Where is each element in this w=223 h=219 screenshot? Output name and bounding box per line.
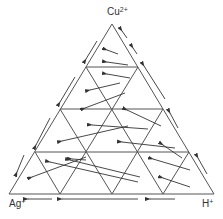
triangle-grid — [9, 24, 214, 194]
cu-label: Cu — [107, 6, 120, 17]
h-charge: + — [209, 198, 213, 205]
ternary-diagram: Cu2+ Ag+ H+ — [0, 0, 223, 219]
ag-label: Ag — [9, 198, 21, 209]
ag-charge: + — [21, 198, 25, 205]
flux-arrows — [17, 31, 207, 199]
vertex-label-ag: Ag+ — [9, 199, 25, 209]
cu-charge: 2+ — [120, 6, 128, 13]
vertex-label-cu: Cu2+ — [107, 7, 128, 17]
vertex-label-h: H+ — [202, 199, 213, 209]
ternary-plot — [0, 0, 223, 219]
